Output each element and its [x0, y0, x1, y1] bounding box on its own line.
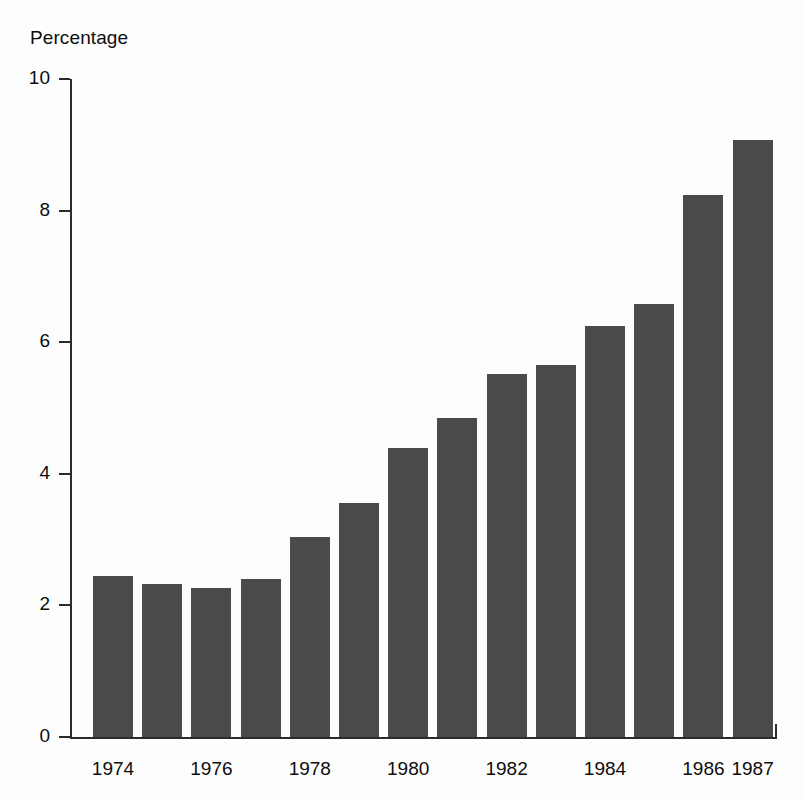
- x-axis-tick-label: 1976: [190, 758, 232, 780]
- bar: [683, 195, 723, 737]
- y-axis-tick: 0: [59, 736, 70, 738]
- y-axis-tick-label: 2: [39, 593, 50, 615]
- bar: [241, 579, 281, 737]
- bar-chart-figure: Percentage 0246810 197419761978198019821…: [0, 0, 803, 802]
- bar: [487, 374, 527, 737]
- bar: [437, 418, 477, 737]
- bar: [93, 576, 133, 737]
- y-axis-title: Percentage: [30, 27, 128, 49]
- x-axis-tick-label: 1978: [289, 758, 331, 780]
- x-axis-tick-label: 1982: [485, 758, 527, 780]
- bar: [536, 365, 576, 737]
- y-axis-line: [70, 79, 72, 738]
- x-axis-tick-label: 1984: [584, 758, 626, 780]
- x-axis-tick-label: 1986: [682, 758, 724, 780]
- bar: [339, 503, 379, 737]
- x-axis-line: [70, 737, 777, 739]
- bar: [388, 448, 428, 737]
- x-axis-tick-label: 1980: [387, 758, 429, 780]
- y-axis-tick: 10: [59, 78, 70, 80]
- y-axis-tick: 2: [59, 604, 70, 606]
- bar: [634, 304, 674, 737]
- bar: [142, 584, 182, 737]
- x-axis-tick-label: 1974: [92, 758, 134, 780]
- x-axis-right-cap: [775, 724, 777, 739]
- bar: [733, 140, 773, 737]
- y-axis-tick: 8: [59, 210, 70, 212]
- bar: [191, 588, 231, 737]
- bar: [290, 537, 330, 737]
- y-axis-tick-label: 4: [39, 462, 50, 484]
- y-axis-tick: 4: [59, 473, 70, 475]
- y-axis-tick-label: 8: [39, 199, 50, 221]
- bar: [585, 326, 625, 737]
- y-axis-tick-label: 0: [39, 725, 50, 747]
- plot-area: 0246810: [70, 79, 776, 737]
- y-axis-tick: 6: [59, 341, 70, 343]
- x-axis-tick-label: 1987: [731, 758, 773, 780]
- y-axis-tick-label: 6: [39, 330, 50, 352]
- y-axis-tick-label: 10: [29, 67, 50, 89]
